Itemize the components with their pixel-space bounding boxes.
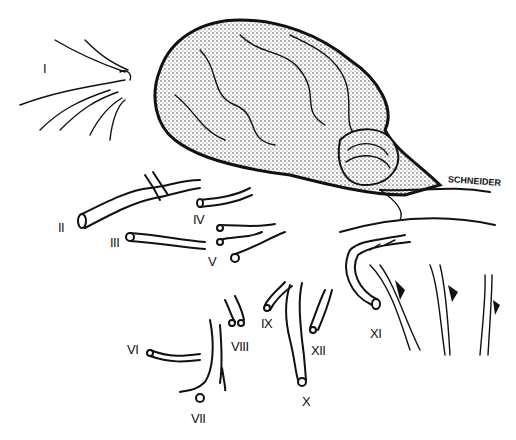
label-V: V [208, 255, 216, 268]
nerve-V-trigeminal [217, 224, 285, 262]
nerve-IV-trochlear [197, 188, 252, 207]
label-IX: IX [261, 317, 272, 330]
diagram-drawing [0, 0, 516, 440]
label-XI: XI [370, 327, 381, 340]
spinal-rootlets [370, 265, 500, 355]
nerve-X-vagus [286, 283, 306, 386]
label-X: X [302, 395, 310, 408]
cranial-nerves-diagram: SCHNEIDER I II III IV V VI VII VIII IX X… [0, 0, 516, 440]
label-VII: VII [191, 412, 205, 425]
label-I: I [43, 62, 46, 75]
label-III: III [110, 236, 119, 249]
label-II: II [58, 221, 64, 234]
nerve-III-oculomotor [126, 233, 205, 249]
nerve-I-olfactory [20, 40, 131, 140]
label-VIII: VIII [231, 340, 249, 353]
label-VI: VI [127, 343, 138, 356]
label-XII: XII [311, 344, 325, 357]
nerve-II-optic [78, 172, 200, 228]
nerve-VI-abducens [147, 350, 200, 361]
label-IV: IV [193, 213, 204, 226]
nerve-VIII-vestibulocochlear [225, 296, 244, 326]
nerve-XII-hypoglossal [310, 290, 332, 333]
